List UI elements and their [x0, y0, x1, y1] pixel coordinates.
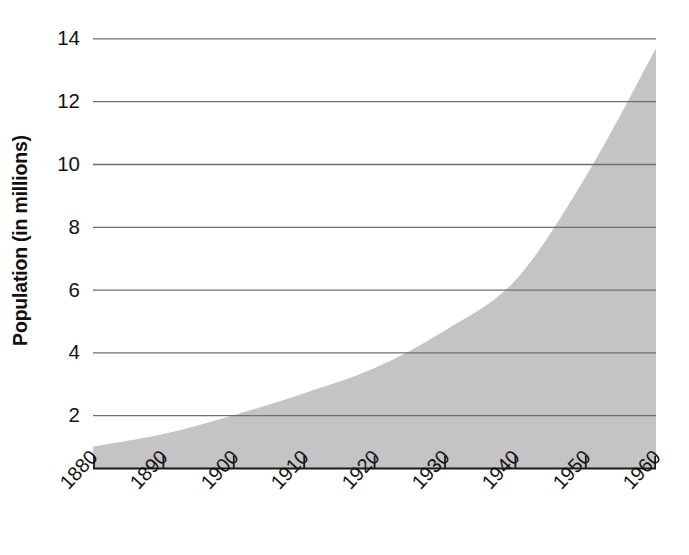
x-tick-label: 1940: [478, 446, 523, 492]
x-tick-label: 1890: [126, 446, 171, 492]
x-tick-label: 1950: [549, 446, 594, 492]
x-tick-label: 1880: [56, 446, 101, 492]
x-tick-label: 1910: [267, 446, 312, 492]
x-tick-label: 1930: [408, 446, 453, 492]
x-tick-label: 1920: [338, 446, 383, 492]
x-tick-label: 1960: [619, 446, 664, 492]
x-axis-tick-labels: 188018901900191019201930194019501960: [0, 0, 689, 555]
area-chart: Population (in millions) 1412108642 1880…: [0, 0, 689, 555]
x-tick-label: 1900: [197, 446, 242, 492]
